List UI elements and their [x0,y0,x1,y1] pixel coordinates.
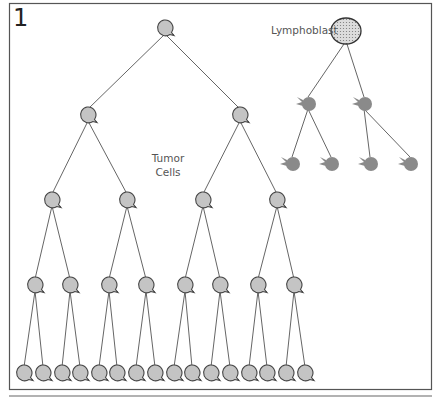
branch-line [364,109,370,157]
branch-line [308,109,331,157]
tumor-cell-icon [178,277,194,293]
tumor-label-line-1: Tumor [138,152,198,166]
tumor-cell-icon [139,277,155,293]
tumor-cell-icon [63,277,79,293]
tumor-cell-icon [81,107,97,123]
branch-line [52,121,88,194]
tumor-cell-icon [204,365,220,381]
branch-line [62,291,70,367]
tumor-cell-icon [298,365,314,381]
tumor-cell-icon [279,365,295,381]
cell-division-diagram: 1 Tumor Cells Lymphoblast [0,0,442,399]
tumor-cell-icon [185,365,201,381]
lymphocyte-cell-icon [398,157,418,171]
tree-lines [24,34,410,367]
tumor-cell-icon [260,365,276,381]
branch-line [211,291,220,367]
branch-line [88,121,127,194]
branch-line [165,34,240,109]
tumor-cell-icon [251,277,267,293]
tumor-cell-icon [233,107,249,123]
branch-line [146,291,155,367]
branch-line [24,291,35,367]
lymphocyte-cell-icon [358,157,378,171]
branch-line [364,109,410,157]
lymphoblast-label: Lymphoblast [271,24,341,38]
lymphocyte-cell-icon [296,97,316,111]
diagram-canvas [0,0,442,399]
branch-line [346,41,364,97]
tumor-cell-icon [196,192,212,208]
branch-line [35,206,52,279]
tumor-cell-icon [120,192,136,208]
branch-line [240,121,277,194]
tumor-cell-icon [110,365,126,381]
tumor-cell-icon [242,365,258,381]
tumor-cell-icon [36,365,52,381]
tumor-cell-icon [213,277,229,293]
branch-line [286,291,294,367]
lymphocyte-cell-icon [352,97,372,111]
branch-line [258,291,267,367]
tumor-cell-icon [223,365,239,381]
branch-line [88,34,165,109]
branch-line [292,109,308,157]
branch-line [185,206,203,279]
branch-line [258,206,277,279]
branch-line [308,41,346,97]
tumor-label-line-2: Cells [138,166,198,180]
branch-line [249,291,258,367]
tumor-cell-icon [17,365,33,381]
tumor-cell-icon [102,277,118,293]
branch-line [70,291,80,367]
branch-line [220,291,230,367]
lymphocyte-cell-icon [280,157,300,171]
lymphocyte-cell-icon [319,157,339,171]
tumor-cell-icon [158,20,174,36]
tumor-cell-icon [55,365,71,381]
tumor-cell-icon [129,365,145,381]
branch-line [203,121,240,194]
tumor-cell-icon [167,365,183,381]
frame-border [10,4,432,390]
branch-line [136,291,146,367]
tumor-cell-icon [92,365,108,381]
tumor-cell-icon [73,365,89,381]
tumor-cells-label: Tumor Cells [138,152,198,179]
tree-nodes [17,18,418,381]
branch-line [35,291,43,367]
tumor-cell-icon [287,277,303,293]
tumor-cell-icon [28,277,44,293]
branch-line [185,291,192,367]
branch-line [109,206,127,279]
branch-line [99,291,109,367]
branch-line [52,206,70,279]
branch-line [277,206,294,279]
tumor-cell-icon [270,192,286,208]
branch-line [127,206,146,279]
branch-line [203,206,220,279]
branch-line [174,291,185,367]
tumor-cell-icon [148,365,164,381]
branch-line [294,291,305,367]
panel-number: 1 [13,6,28,30]
tumor-cell-icon [45,192,61,208]
branch-line [109,291,117,367]
